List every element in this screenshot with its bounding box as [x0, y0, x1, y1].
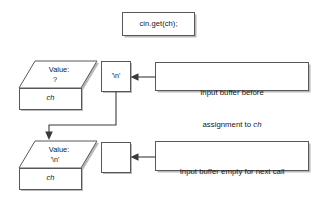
buffer-before-caption-line2-prefix: assignment to — [203, 120, 254, 129]
buffer-before-caption-line2-var: ch — [253, 120, 261, 129]
variable-before-name-label: ch — [20, 94, 82, 103]
variable-after-name-label: ch — [20, 174, 82, 183]
buffer-after-box — [102, 143, 131, 173]
statement-text: cin.get(ch); — [123, 20, 195, 29]
diagram-canvas: cin.get(ch); Value: ? ch '\n' Input buff… — [0, 0, 327, 200]
buffer-after-caption-line2-var: ch — [243, 199, 251, 200]
buffer-before-caption-line1: Input buffer before — [156, 88, 309, 99]
buffer-after-caption-line1: Input buffer empty for next call — [156, 167, 309, 178]
buffer-before-caption-line2: assignment to ch — [156, 120, 309, 131]
variable-before-value-label: Value: — [28, 66, 90, 74]
variable-after-value-label: Value: — [28, 146, 90, 154]
buffer-after-caption-line2-prefix: to cin.get( — [208, 199, 242, 200]
buffer-before-content: '\n' — [102, 72, 131, 80]
variable-before-value-content: ? — [24, 76, 86, 84]
assignment-connector-arrowhead — [45, 132, 53, 141]
buffer-before-caption: Input buffer before assignment to ch — [156, 67, 309, 151]
buffer-after-caption-line2-suffix: ); — [251, 199, 256, 200]
buffer-after-caption: Input buffer empty for next call to cin.… — [156, 146, 309, 200]
variable-after-value-content: '\n' — [24, 156, 86, 164]
buffer-after-caption-line2: to cin.get(ch); — [156, 199, 309, 200]
